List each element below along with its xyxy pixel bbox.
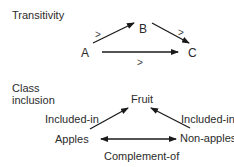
node-b: B [139,23,147,35]
class-inclusion-title-line2: inclusion [12,94,55,106]
edge-label-a-b: > [95,29,101,41]
class-inclusion-title-line1: Class [12,82,40,94]
node-apples: Apples [55,133,89,145]
node-a: A [81,47,89,59]
edge-label-complement-of: Complement-of [104,150,179,162]
edge-label-apples-fruit: Included-in [45,113,99,125]
node-c: C [188,47,197,59]
edge-label-a-c: > [137,57,143,69]
node-fruit: Fruit [131,93,153,105]
edge-label-b-c: > [178,27,184,39]
node-non-apples: Non-apples [180,132,234,144]
transitivity-title: Transitivity [12,9,64,21]
edge-label-nonapples-fruit: Included-in [181,113,234,125]
